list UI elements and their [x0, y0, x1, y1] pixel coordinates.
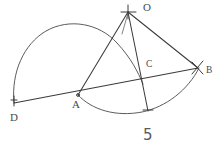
- geometry-figure: O D A C B 5: [0, 0, 215, 148]
- point-label-B: B: [206, 66, 213, 76]
- point-label-D: D: [10, 112, 18, 123]
- point-label-C: C: [146, 60, 153, 70]
- point-label-A: A: [72, 99, 80, 110]
- figure-canvas: [0, 0, 215, 148]
- line-O-B: [128, 12, 198, 68]
- figure-caption: 5: [143, 128, 153, 143]
- line-D-B: [14, 68, 198, 103]
- point-marker-B: [192, 61, 203, 74]
- point-label-O: O: [143, 2, 151, 13]
- point-marker-D: [11, 96, 17, 106]
